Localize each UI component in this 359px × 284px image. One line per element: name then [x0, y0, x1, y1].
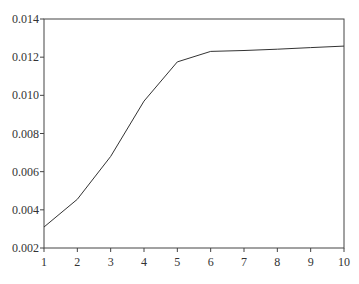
x-tick-label: 8: [274, 255, 280, 269]
y-tick-label: 0.006: [12, 165, 39, 179]
x-axis: 12345678910: [41, 248, 350, 269]
plot-frame: [44, 19, 344, 248]
x-tick-label: 6: [208, 255, 214, 269]
y-tick-label: 0.004: [12, 203, 39, 217]
x-tick-label: 10: [338, 255, 350, 269]
y-tick-label: 0.002: [12, 241, 39, 255]
x-tick-label: 1: [41, 255, 47, 269]
y-tick-label: 0.012: [12, 50, 39, 64]
line-chart: 0.0020.0040.0060.0080.0100.0120.014 1234…: [0, 0, 359, 284]
x-tick-label: 2: [74, 255, 80, 269]
y-axis: 0.0020.0040.0060.0080.0100.0120.014: [12, 12, 44, 255]
x-tick-label: 5: [174, 255, 180, 269]
data-line: [44, 46, 344, 227]
x-tick-label: 3: [108, 255, 114, 269]
y-tick-label: 0.014: [12, 12, 39, 26]
y-tick-label: 0.008: [12, 127, 39, 141]
x-tick-label: 7: [241, 255, 247, 269]
y-tick-label: 0.010: [12, 88, 39, 102]
x-tick-label: 9: [308, 255, 314, 269]
x-tick-label: 4: [141, 255, 147, 269]
